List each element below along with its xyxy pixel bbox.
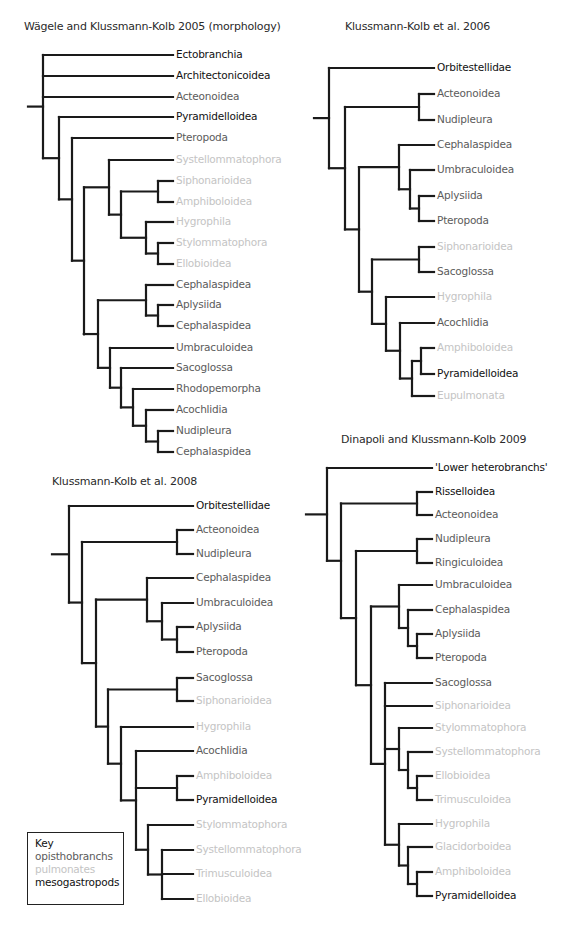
- key-pulmonates: pulmonates: [35, 863, 95, 876]
- taxon-label: Stylommatophora: [196, 818, 287, 830]
- taxon-label: Sacoglossa: [176, 361, 233, 373]
- taxon-label: Acteonoidea: [435, 508, 498, 520]
- taxon-label: Orbitestellidae: [437, 61, 511, 73]
- taxon-label: Glacidorboidea: [435, 840, 511, 852]
- tree-title-klussmann-2006: Klussmann-Kolb et al. 2006: [345, 20, 490, 33]
- taxon-label: Acteonoidea: [176, 90, 239, 102]
- taxon-label: Systellommatophora: [435, 745, 541, 757]
- taxon-label: Nudipleura: [196, 547, 252, 559]
- tree-title-wagele-2005: Wägele and Klussmann-Kolb 2005 (morpholo…: [24, 20, 281, 33]
- taxon-label: Acteonoidea: [196, 523, 259, 535]
- taxon-label: Aplysiida: [435, 627, 481, 639]
- taxon-label: Siphonarioidea: [196, 694, 272, 706]
- taxon-label: Siphonarioidea: [435, 699, 511, 711]
- key-mesogastropods: mesogastropods: [35, 876, 119, 889]
- taxon-label: Amphiboloidea: [437, 341, 513, 353]
- taxon-label: Pteropoda: [437, 214, 489, 226]
- taxon-label: Sacoglossa: [196, 671, 253, 683]
- taxon-label: Pteropoda: [196, 645, 248, 657]
- taxon-label: Ellobioidea: [196, 892, 251, 904]
- taxon-label: Umbraculoidea: [437, 163, 514, 175]
- taxon-label: Ringiculoidea: [435, 556, 503, 568]
- taxon-label: Pyramidelloidea: [196, 793, 277, 805]
- taxon-label: Acteonoidea: [437, 87, 500, 99]
- taxon-label: Aplysiida: [196, 620, 242, 632]
- taxon-label: Trimusculoidea: [196, 867, 272, 879]
- taxon-label: Acochlidia: [196, 744, 247, 756]
- taxon-label: Siphonarioidea: [176, 174, 252, 186]
- taxon-label: Cephalaspidea: [437, 138, 512, 150]
- taxon-label: Sacoglossa: [435, 676, 492, 688]
- taxon-label: Pyramidelloidea: [176, 110, 257, 122]
- taxon-label: Umbraculoidea: [435, 578, 512, 590]
- taxon-label: Risselloidea: [435, 485, 495, 497]
- taxon-label: Stylommatophora: [435, 721, 526, 733]
- taxon-label: Aplysiida: [176, 298, 222, 310]
- taxon-label: Architectonicoidea: [176, 69, 270, 81]
- taxon-label: Amphiboloidea: [176, 195, 252, 207]
- taxon-label: Nudipleura: [435, 532, 491, 544]
- taxon-label: 'Lower heterobranchs': [435, 461, 548, 473]
- taxon-label: Siphonarioidea: [437, 240, 513, 252]
- legend-key: Key opisthobranchs pulmonates mesogastro…: [27, 832, 124, 905]
- tree-title-klussmann-2008: Klussmann-Kolb et al. 2008: [52, 475, 197, 488]
- taxon-label: Hygrophila: [437, 290, 492, 302]
- taxon-label: Umbraculoidea: [196, 596, 273, 608]
- taxon-label: Orbitestellidae: [196, 499, 270, 511]
- taxon-label: Amphiboloidea: [435, 865, 511, 877]
- taxon-label: Sacoglossa: [437, 265, 494, 277]
- taxon-label: Amphiboloidea: [196, 769, 272, 781]
- taxon-label: Cephalaspidea: [176, 445, 251, 457]
- taxon-label: Pteropoda: [435, 651, 487, 663]
- taxon-label: Hygrophila: [196, 720, 251, 732]
- taxon-label: Ectobranchia: [176, 48, 242, 60]
- taxon-label: Cephalaspidea: [435, 603, 510, 615]
- taxon-label: Stylommatophora: [176, 236, 267, 248]
- taxon-label: Pyramidelloidea: [435, 889, 516, 901]
- taxon-label: Cephalaspidea: [176, 278, 251, 290]
- taxon-label: Systellommatophora: [176, 153, 282, 165]
- taxon-label: Cephalaspidea: [176, 319, 251, 331]
- taxon-label: Eupulmonata: [437, 389, 505, 401]
- tree-title-dinapoli-2009: Dinapoli and Klussmann-Kolb 2009: [341, 433, 526, 446]
- taxon-label: Acochlidia: [176, 403, 227, 415]
- key-opisthobranchs: opisthobranchs: [35, 850, 113, 863]
- taxon-label: Ellobioidea: [176, 257, 231, 269]
- taxon-label: Hygrophila: [435, 817, 490, 829]
- taxon-label: Acochlidia: [437, 316, 488, 328]
- taxon-label: Ellobioidea: [435, 769, 490, 781]
- taxon-label: Pteropoda: [176, 131, 228, 143]
- taxon-label: Aplysiida: [437, 189, 483, 201]
- taxon-label: Umbraculoidea: [176, 341, 253, 353]
- taxon-label: Systellommatophora: [196, 843, 302, 855]
- key-title: Key: [35, 837, 53, 850]
- taxon-label: Trimusculoidea: [435, 793, 511, 805]
- taxon-label: Pyramidelloidea: [437, 367, 518, 379]
- taxon-label: Cephalaspidea: [196, 571, 271, 583]
- taxon-label: Nudipleura: [176, 424, 232, 436]
- taxon-label: Rhodopemorpha: [176, 382, 261, 394]
- taxon-label: Nudipleura: [437, 113, 493, 125]
- taxon-label: Hygrophila: [176, 215, 231, 227]
